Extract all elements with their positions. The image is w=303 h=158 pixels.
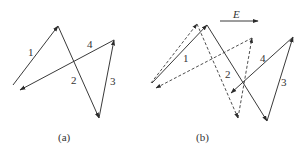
vector-3-b [267, 37, 293, 121]
label-2-b: 2 [225, 68, 231, 80]
panel-a [13, 26, 114, 118]
vector-4-a [20, 40, 114, 90]
panel-b-solid [152, 25, 293, 121]
field-label-e: E [232, 8, 240, 20]
vector-1-b [152, 25, 207, 83]
vector-2-b-dashed [197, 24, 238, 118]
panel-b-dashed [151, 24, 252, 118]
caption-b: (b) [196, 131, 209, 144]
label-3-b: 3 [281, 76, 287, 88]
vector-1-a [13, 26, 58, 85]
label-4-b: 4 [260, 52, 266, 64]
vector-2-b [207, 25, 267, 121]
diagram-canvas: 1 4 2 3 (a) E 1 2 4 3 (b) [0, 0, 303, 158]
vector-1-b-dashed [151, 24, 197, 83]
label-1-a: 1 [28, 46, 34, 58]
label-1-b: 1 [183, 52, 189, 64]
caption-a: (a) [58, 131, 71, 144]
label-3-a: 3 [110, 75, 116, 87]
label-2-a: 2 [71, 74, 77, 86]
vector-2-a [58, 26, 99, 118]
label-4-a: 4 [87, 38, 93, 50]
